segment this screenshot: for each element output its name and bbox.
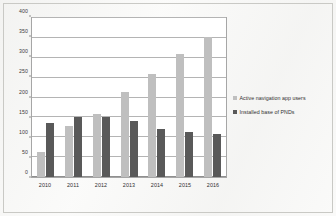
bar (213, 134, 221, 177)
legend-label: Active navigation app users (240, 95, 306, 101)
y-tick-label: 150 (19, 109, 28, 115)
bar-group (115, 18, 143, 177)
page-background: 050100150200250300350400 201020112012201… (0, 0, 336, 216)
bar (204, 37, 212, 177)
bar-group (87, 18, 115, 177)
x-tick-label: 2010 (31, 178, 59, 203)
x-tick-label: 2012 (87, 178, 115, 203)
y-tick-label: 300 (19, 48, 28, 54)
bar-group (143, 18, 171, 177)
bar-group (60, 18, 88, 177)
bar-group (198, 18, 226, 177)
legend-item[interactable]: Installed base of PNDs (233, 109, 332, 115)
legend-label: Installed base of PNDs (240, 109, 295, 115)
bar (148, 74, 156, 177)
bar-group (32, 18, 60, 177)
bar (176, 54, 184, 177)
y-tick-label: 0 (25, 169, 28, 175)
x-axis: 2010201120122013201420152016 (31, 178, 227, 203)
bar-chart: 050100150200250300350400 201020112012201… (13, 13, 227, 203)
bar-groups (32, 18, 226, 177)
y-tick-label: 50 (22, 149, 28, 155)
bar (37, 152, 45, 177)
x-tick-labels: 2010201120122013201420152016 (31, 178, 227, 203)
bar (130, 121, 138, 177)
bar (46, 123, 54, 177)
chart-legend: Active navigation app usersInstalled bas… (233, 95, 332, 123)
y-tick-label: 200 (19, 89, 28, 95)
bar-group (171, 18, 199, 177)
bar (157, 129, 165, 177)
plot-area (31, 17, 227, 178)
bar (74, 117, 82, 177)
x-tick-label: 2013 (115, 178, 143, 203)
y-tick-label: 400 (19, 8, 28, 14)
x-tick-label: 2014 (143, 178, 171, 203)
legend-item[interactable]: Active navigation app users (233, 95, 332, 101)
x-tick-label: 2016 (199, 178, 227, 203)
bar (102, 117, 110, 177)
x-tick-label: 2015 (171, 178, 199, 203)
legend-swatch-icon (233, 96, 237, 100)
bar (185, 132, 193, 177)
y-axis: 050100150200250300350400 (13, 17, 31, 178)
bar (65, 126, 73, 177)
y-tick-label: 350 (19, 28, 28, 34)
x-tick-label: 2011 (59, 178, 87, 203)
bar (93, 114, 101, 177)
y-tick-label: 250 (19, 68, 28, 74)
bar (121, 92, 129, 177)
y-tick-label: 100 (19, 129, 28, 135)
legend-swatch-icon (233, 110, 237, 114)
